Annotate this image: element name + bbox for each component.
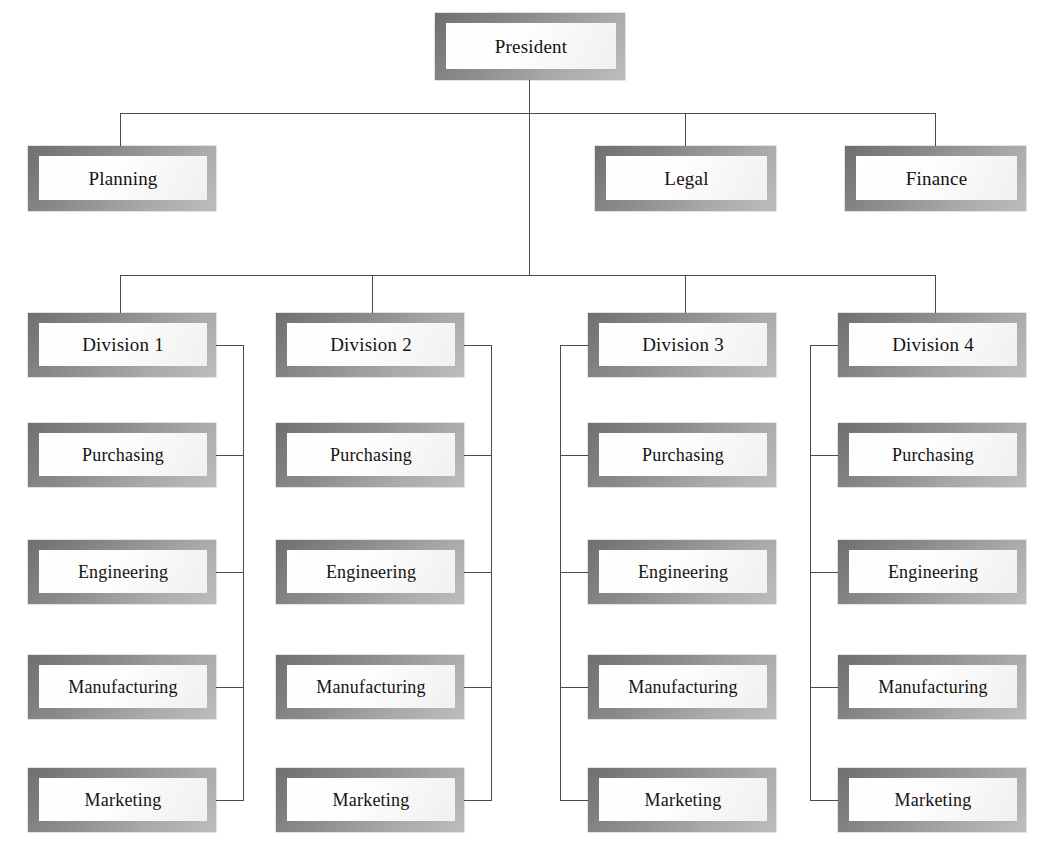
node-division-1[interactable]: Division 1: [28, 313, 216, 377]
division-1-stub-line: [215, 345, 244, 346]
level1-bus-line: [120, 113, 936, 114]
division-3-dept-2-stub-line: [560, 572, 589, 573]
node-planning-label: Planning: [88, 169, 157, 188]
division-2-drop-line: [372, 275, 373, 313]
node-division-4-manufacturing-label: Manufacturing: [878, 678, 988, 696]
node-division-1-manufacturing-inner: Manufacturing: [39, 665, 207, 708]
node-division-3[interactable]: Division 3: [588, 313, 776, 377]
division-4-dept-3-stub-line: [810, 687, 839, 688]
division-1-dept-3-stub-line: [215, 687, 244, 688]
node-finance-label: Finance: [906, 169, 968, 188]
node-division-3-purchasing-label: Purchasing: [642, 446, 724, 464]
node-division-1-engineering-inner: Engineering: [39, 550, 207, 593]
division-4-dept-2-stub-line: [810, 572, 839, 573]
node-division-3-marketing-label: Marketing: [645, 791, 722, 809]
node-division-4-purchasing-inner: Purchasing: [849, 433, 1017, 476]
node-president-label: President: [495, 37, 568, 56]
node-division-2-engineering-label: Engineering: [326, 563, 416, 581]
node-division-2-inner: Division 2: [287, 323, 455, 366]
division-4-dept-4-stub-line: [810, 800, 839, 801]
org-chart: President Planning Legal Finance Divisio…: [0, 0, 1039, 863]
division-1-drop-line: [120, 275, 121, 313]
division-4-dept-1-stub-line: [810, 455, 839, 456]
node-division-3-purchasing-inner: Purchasing: [599, 433, 767, 476]
node-division-4-purchasing-label: Purchasing: [892, 446, 974, 464]
node-division-1-marketing-label: Marketing: [85, 791, 162, 809]
node-division-2[interactable]: Division 2: [276, 313, 464, 377]
node-division-4-label: Division 4: [892, 335, 974, 354]
division-3-drop-line: [685, 275, 686, 313]
planning-drop-line: [120, 113, 121, 146]
node-division-3-label: Division 3: [642, 335, 724, 354]
node-division-1-manufacturing-label: Manufacturing: [68, 678, 178, 696]
node-division-4-engineering-inner: Engineering: [849, 550, 1017, 593]
node-legal[interactable]: Legal: [595, 146, 776, 211]
node-division-4-engineering[interactable]: Engineering: [838, 540, 1026, 604]
node-division-3-marketing-inner: Marketing: [599, 778, 767, 821]
division-2-dept-4-stub-line: [463, 800, 492, 801]
node-division-1-purchasing-label: Purchasing: [82, 446, 164, 464]
node-legal-label: Legal: [664, 169, 708, 188]
level2-bus-line: [120, 275, 936, 276]
node-division-3-marketing[interactable]: Marketing: [588, 768, 776, 832]
division-2-stub-line: [463, 345, 492, 346]
node-division-3-manufacturing[interactable]: Manufacturing: [588, 655, 776, 719]
node-division-1-manufacturing[interactable]: Manufacturing: [28, 655, 216, 719]
node-finance[interactable]: Finance: [845, 146, 1026, 211]
node-division-4-marketing-inner: Marketing: [849, 778, 1017, 821]
node-division-2-marketing[interactable]: Marketing: [276, 768, 464, 832]
node-division-1-engineering[interactable]: Engineering: [28, 540, 216, 604]
division-4-stub-line: [810, 345, 839, 346]
node-division-1-purchasing[interactable]: Purchasing: [28, 423, 216, 487]
node-division-3-manufacturing-label: Manufacturing: [628, 678, 738, 696]
node-division-1-engineering-label: Engineering: [78, 563, 168, 581]
division-3-dept-1-stub-line: [560, 455, 589, 456]
node-division-2-purchasing-label: Purchasing: [330, 446, 412, 464]
node-division-2-marketing-label: Marketing: [333, 791, 410, 809]
division-3-dept-4-stub-line: [560, 800, 589, 801]
node-division-2-engineering[interactable]: Engineering: [276, 540, 464, 604]
division-1-dept-1-stub-line: [215, 455, 244, 456]
node-president[interactable]: President: [435, 13, 625, 80]
node-division-2-manufacturing[interactable]: Manufacturing: [276, 655, 464, 719]
node-division-3-engineering[interactable]: Engineering: [588, 540, 776, 604]
node-president-inner: President: [446, 23, 616, 69]
division-3-stub-line: [560, 345, 589, 346]
node-division-4-marketing[interactable]: Marketing: [838, 768, 1026, 832]
legal-drop-line: [685, 113, 686, 146]
node-division-2-purchasing-inner: Purchasing: [287, 433, 455, 476]
node-division-1-marketing-inner: Marketing: [39, 778, 207, 821]
division-2-dept-1-stub-line: [463, 455, 492, 456]
president-stem-line: [529, 80, 530, 276]
node-legal-inner: Legal: [606, 156, 767, 200]
node-division-4-manufacturing-inner: Manufacturing: [849, 665, 1017, 708]
node-division-3-manufacturing-inner: Manufacturing: [599, 665, 767, 708]
node-division-4-manufacturing[interactable]: Manufacturing: [838, 655, 1026, 719]
node-planning-inner: Planning: [39, 156, 207, 200]
node-division-3-engineering-inner: Engineering: [599, 550, 767, 593]
division-2-dept-3-stub-line: [463, 687, 492, 688]
node-division-4-engineering-label: Engineering: [888, 563, 978, 581]
node-division-2-marketing-inner: Marketing: [287, 778, 455, 821]
division-1-dept-4-stub-line: [215, 800, 244, 801]
node-division-2-engineering-inner: Engineering: [287, 550, 455, 593]
node-planning[interactable]: Planning: [28, 146, 216, 211]
division-3-dept-3-stub-line: [560, 687, 589, 688]
node-division-4[interactable]: Division 4: [838, 313, 1026, 377]
node-division-4-purchasing[interactable]: Purchasing: [838, 423, 1026, 487]
node-division-3-inner: Division 3: [599, 323, 767, 366]
node-division-3-purchasing[interactable]: Purchasing: [588, 423, 776, 487]
node-division-4-marketing-label: Marketing: [895, 791, 972, 809]
node-division-2-manufacturing-inner: Manufacturing: [287, 665, 455, 708]
node-division-3-engineering-label: Engineering: [638, 563, 728, 581]
node-division-1-marketing[interactable]: Marketing: [28, 768, 216, 832]
division-1-dept-2-stub-line: [215, 572, 244, 573]
node-division-4-inner: Division 4: [849, 323, 1017, 366]
node-division-1-label: Division 1: [82, 335, 164, 354]
division-2-dept-2-stub-line: [463, 572, 492, 573]
node-division-2-label: Division 2: [330, 335, 412, 354]
node-division-2-purchasing[interactable]: Purchasing: [276, 423, 464, 487]
division-4-drop-line: [935, 275, 936, 313]
node-finance-inner: Finance: [856, 156, 1017, 200]
node-division-2-manufacturing-label: Manufacturing: [316, 678, 426, 696]
